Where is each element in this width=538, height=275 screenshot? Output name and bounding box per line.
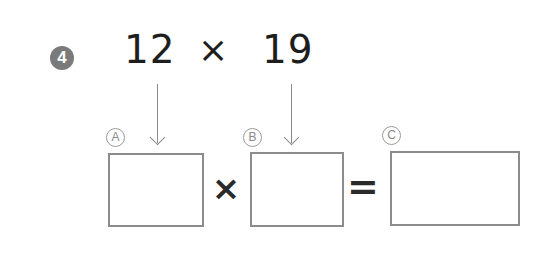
equals-sign: = <box>346 166 380 206</box>
answer-box-a[interactable] <box>108 153 204 227</box>
problem-number-badge: 4 <box>50 46 74 70</box>
answer-box-c[interactable] <box>390 151 520 226</box>
arrow-head-icon <box>150 130 166 146</box>
label-c: C <box>382 126 401 145</box>
answer-box-b[interactable] <box>250 152 344 227</box>
factor-b: 19 <box>262 28 314 72</box>
multiply-operator: × <box>198 28 228 72</box>
label-a: A <box>106 128 125 147</box>
multiply-sign: × <box>210 168 242 208</box>
arrow-head-icon <box>284 130 300 146</box>
factor-a: 12 <box>124 28 176 72</box>
label-b: B <box>243 128 262 147</box>
